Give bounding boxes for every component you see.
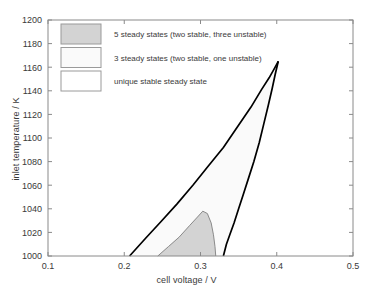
y-tick-label: 1100 xyxy=(23,133,42,143)
y-tick-label: 1160 xyxy=(23,63,42,73)
x-axis-title: cell voltage / V xyxy=(0,275,373,285)
y-tick-label: 1180 xyxy=(23,39,42,49)
legend-swatch xyxy=(61,71,101,91)
bifurcation-diagram-figure: 0.10.20.30.40.5 100010201040106010801100… xyxy=(0,0,373,293)
x-tick-label: 0.4 xyxy=(270,261,283,271)
y-axis-tick-labels: 1000102010401060108011001120114011601180… xyxy=(22,15,42,261)
legend-label: 3 steady states (two stable, one unstabl… xyxy=(114,54,262,63)
y-axis-title: inlet temperature / K xyxy=(11,69,21,209)
legend-label: 5 steady states (two stable, three unsta… xyxy=(114,30,267,39)
legend-swatch xyxy=(61,48,101,68)
y-tick-label: 1120 xyxy=(23,110,42,120)
y-tick-label: 1020 xyxy=(22,228,42,238)
legend-swatch xyxy=(61,24,101,44)
plot-canvas: 0.10.20.30.40.5 100010201040106010801100… xyxy=(0,0,373,293)
x-tick-label: 0.5 xyxy=(347,261,360,271)
x-axis-tick-labels: 0.10.20.30.40.5 xyxy=(42,261,360,271)
x-tick-label: 0.3 xyxy=(194,261,207,271)
x-tick-label: 0.2 xyxy=(118,261,131,271)
x-tick-label: 0.1 xyxy=(42,261,55,271)
y-tick-label: 1000 xyxy=(22,251,42,261)
legend-label: unique stable steady state xyxy=(114,77,208,86)
y-tick-label: 1060 xyxy=(22,181,42,191)
y-tick-label: 1140 xyxy=(23,86,42,96)
y-tick-label: 1080 xyxy=(22,157,42,167)
y-tick-label: 1040 xyxy=(22,204,42,214)
y-tick-label: 1200 xyxy=(22,15,42,25)
